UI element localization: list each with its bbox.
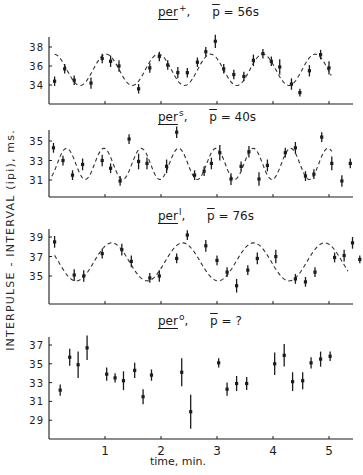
data-point	[204, 47, 207, 57]
data-point	[301, 372, 304, 389]
point-marker	[229, 177, 232, 180]
data-point	[52, 143, 55, 153]
point-marker	[63, 67, 66, 70]
data-point	[73, 269, 76, 281]
point-marker	[283, 354, 286, 357]
point-marker	[73, 273, 76, 276]
figure-canvas: 343638313335353739123452931333537	[0, 0, 363, 475]
point-marker	[312, 173, 315, 176]
panel-0: 343638	[29, 35, 353, 104]
data-point	[242, 72, 245, 82]
point-marker	[349, 162, 352, 165]
data-point	[105, 368, 108, 381]
point-marker	[176, 71, 179, 74]
point-marker	[101, 159, 104, 162]
point-marker	[53, 80, 56, 83]
data-point	[343, 250, 346, 262]
data-point	[109, 56, 112, 67]
data-point	[309, 357, 312, 368]
data-point	[145, 158, 148, 170]
data-point	[330, 157, 333, 171]
y-tick-label: 33	[29, 156, 44, 167]
point-marker	[266, 164, 269, 167]
point-marker	[313, 271, 316, 274]
point-marker	[186, 71, 189, 74]
point-marker	[109, 60, 112, 63]
point-marker	[119, 179, 122, 182]
point-marker	[329, 355, 332, 358]
point-marker	[225, 271, 228, 274]
point-marker	[246, 269, 249, 272]
point-marker	[127, 137, 130, 140]
data-point	[308, 65, 311, 76]
panel-title-per-s: pers, p = 40s	[158, 108, 256, 124]
point-marker	[225, 388, 228, 391]
data-point	[186, 230, 189, 240]
point-marker	[217, 361, 220, 364]
point-marker	[77, 363, 80, 366]
data-point	[120, 244, 123, 256]
data-point	[137, 84, 140, 94]
x-tick-label: 4	[269, 444, 277, 458]
point-marker	[204, 244, 207, 247]
data-point	[165, 160, 168, 174]
y-tick-label: 35	[29, 136, 44, 147]
data-point	[235, 279, 238, 293]
point-marker	[89, 82, 92, 85]
point-marker	[175, 257, 178, 260]
y-tick-label: 39	[29, 232, 44, 243]
point-marker	[101, 57, 104, 60]
point-marker	[239, 165, 242, 168]
point-marker	[189, 410, 192, 413]
data-point	[137, 154, 140, 170]
data-point	[329, 352, 332, 361]
data-point	[53, 236, 56, 248]
point-marker	[109, 167, 112, 170]
data-point	[246, 265, 249, 275]
point-marker	[242, 75, 245, 78]
data-point	[89, 77, 92, 88]
point-marker	[130, 260, 133, 263]
point-marker	[294, 146, 297, 149]
data-point	[176, 67, 179, 78]
point-marker	[256, 257, 259, 260]
panel-title-per-l: perl, p = 76s	[158, 207, 254, 223]
y-tick-label: 37	[29, 340, 44, 351]
point-marker	[284, 151, 287, 154]
panel-3: 123452931333537	[29, 336, 353, 458]
data-point	[278, 59, 281, 74]
data-point	[217, 358, 220, 367]
point-marker	[122, 379, 125, 382]
point-marker	[290, 82, 293, 85]
data-point	[210, 158, 213, 170]
point-marker	[319, 53, 322, 56]
data-point	[294, 142, 297, 154]
data-point	[196, 57, 199, 66]
point-marker	[257, 177, 260, 180]
data-point	[113, 373, 116, 382]
point-marker	[120, 248, 123, 251]
data-point	[117, 60, 120, 71]
point-marker	[148, 66, 151, 69]
point-marker	[232, 73, 235, 76]
point-marker	[105, 373, 108, 376]
data-point	[304, 277, 307, 287]
y-tick-label: 36	[29, 61, 44, 72]
y-tick-label: 35	[29, 359, 44, 370]
point-marker	[193, 174, 196, 177]
data-point	[85, 336, 88, 360]
data-point	[239, 161, 242, 171]
sine-fit-curve	[55, 243, 348, 281]
point-marker	[204, 50, 207, 53]
point-marker	[210, 162, 213, 165]
data-point	[358, 256, 361, 264]
data-point	[101, 155, 104, 167]
y-tick-label: 38	[29, 42, 44, 53]
point-marker	[291, 380, 294, 383]
data-point	[63, 64, 66, 74]
data-point	[320, 132, 323, 142]
point-marker	[327, 66, 330, 69]
x-tick-label: 1	[101, 444, 109, 458]
data-point	[270, 57, 273, 67]
point-marker	[218, 151, 221, 154]
